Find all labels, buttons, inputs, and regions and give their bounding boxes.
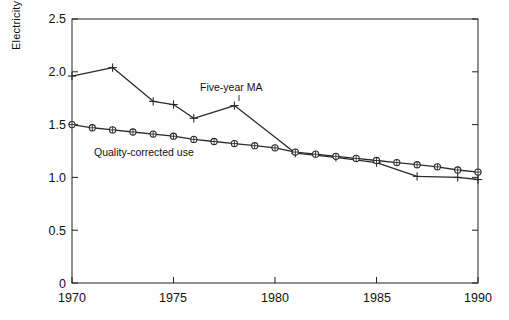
chart-figure: Electricity use (kWh/day) 2.5 2.0 1.5 1.… bbox=[0, 0, 509, 320]
plot-canvas bbox=[0, 0, 509, 320]
